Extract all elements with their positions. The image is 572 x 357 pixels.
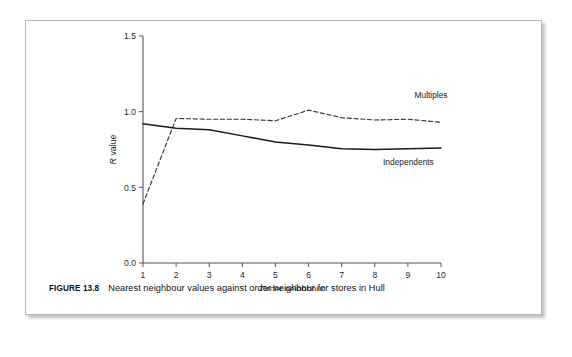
x-tick-label: 10 <box>436 270 446 280</box>
line-chart: 0.00.51.01.512345678910 Order neighbourR… <box>26 21 543 291</box>
y-tick-label: 0.5 <box>124 183 136 193</box>
series-label-multiples: Multiples <box>415 90 448 100</box>
chart-plot-area: 0.00.51.01.512345678910 Order neighbourR… <box>26 21 543 291</box>
svg-text:R value: R value <box>108 134 118 164</box>
x-tick-label: 1 <box>141 270 146 280</box>
x-tick-label: 5 <box>273 270 278 280</box>
series-label-independents: Independents <box>383 157 434 167</box>
chart-axes: 0.00.51.01.512345678910 <box>124 31 446 279</box>
figure-panel: 0.00.51.01.512345678910 Order neighbourR… <box>25 20 542 315</box>
caption-number: FIGURE 13.8 <box>49 284 99 293</box>
x-tick-label: 6 <box>306 270 311 280</box>
y-axis-title: R value <box>108 134 118 164</box>
x-tick-label: 3 <box>207 270 212 280</box>
x-tick-label: 9 <box>405 270 410 280</box>
x-tick-label: 8 <box>372 270 377 280</box>
x-tick-label: 2 <box>174 270 179 280</box>
caption-text: Nearest neighbour values against order n… <box>108 283 385 293</box>
x-tick-label: 4 <box>240 270 245 280</box>
y-tick-label: 0.0 <box>124 258 136 268</box>
figure-container: 0.00.51.01.512345678910 Order neighbourR… <box>0 0 572 357</box>
series-line-independents <box>143 124 441 150</box>
figure-caption: FIGURE 13.8 Nearest neighbour values aga… <box>49 283 519 293</box>
y-tick-label: 1.5 <box>124 31 136 41</box>
y-tick-label: 1.0 <box>124 107 136 117</box>
x-tick-label: 7 <box>339 270 344 280</box>
